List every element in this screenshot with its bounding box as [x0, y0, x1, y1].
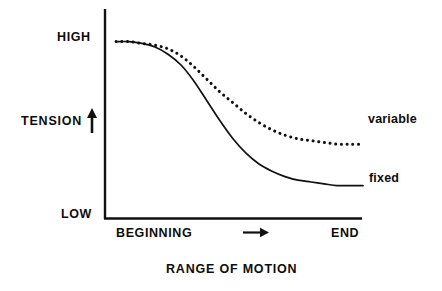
- chart-figure: HIGH LOW TENSION BEGINNING END RANGE OF …: [0, 0, 442, 291]
- x-axis-end-label: END: [331, 226, 359, 240]
- y-axis-high-label: HIGH: [57, 30, 91, 44]
- x-axis-beginning-label: BEGINNING: [116, 226, 192, 240]
- series-label-variable: variable: [368, 112, 417, 126]
- up-arrow-icon: [86, 108, 98, 134]
- x-axis-title: RANGE OF MOTION: [166, 262, 297, 276]
- right-arrow-icon: [243, 228, 269, 237]
- series-line-fixed: [116, 41, 363, 185]
- y-axis-low-label: LOW: [61, 207, 92, 221]
- y-axis-title: TENSION: [21, 114, 82, 128]
- series-line-variable: [116, 41, 363, 144]
- series-label-fixed: fixed: [369, 171, 399, 185]
